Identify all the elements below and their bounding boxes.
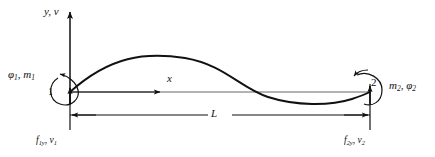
deflected-shape-curve [70,56,370,104]
y-axis-label: y, v [44,6,59,17]
x-axis-label: x [167,73,172,84]
node-1-rotation-moment-label: φ1, m1 [8,69,35,82]
m-2-symbol: m [389,79,397,91]
m-1-subscript: 1 [31,73,35,82]
node-1-label: 1 [48,87,53,97]
node-1-force-displacement-label: f1y, v1 [36,136,57,146]
phi-2-subscript: 2 [412,84,416,93]
node-2-moment-rotation-label: m2, φ2 [389,80,416,93]
beam-element-diagram [0,0,435,157]
node-2-force-displacement-label: f2y, v2 [344,136,365,146]
node-2-label: 2 [371,77,377,88]
v-2-subscript: 2 [362,139,365,146]
length-dimension-label: L [211,108,217,119]
v-1-subscript: 1 [54,139,57,146]
